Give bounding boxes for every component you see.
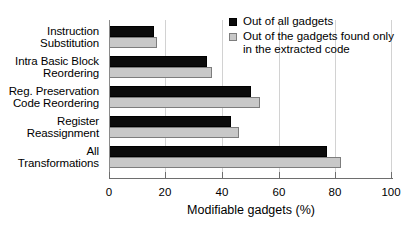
x-axis-title: Modifiable gadgets (%) bbox=[109, 203, 393, 218]
y-axis-label-1-line-0: Intra Basic Block bbox=[0, 55, 99, 68]
y-axis-label-2-line-0: Reg. Preservation bbox=[0, 85, 99, 98]
y-axis-label-2-line-1: Code Reordering bbox=[0, 97, 99, 110]
bar-extracted-code bbox=[109, 97, 260, 108]
legend-label-black-line1: Out of all gadgets bbox=[243, 15, 333, 29]
bar-all-gadgets bbox=[109, 86, 251, 97]
x-tick-100 bbox=[391, 172, 392, 179]
legend-label-gray: Out of the gadgets found only in the ext… bbox=[243, 30, 394, 57]
chart-legend: Out of all gadgets Out of the gadgets fo… bbox=[229, 15, 394, 58]
bar-extracted-code bbox=[109, 67, 212, 78]
y-axis-label-4-line-0: All bbox=[0, 145, 99, 158]
x-tick-label-0: 0 bbox=[89, 186, 129, 199]
y-axis-label-4-line-1: Transformations bbox=[0, 157, 99, 170]
x-tick-80 bbox=[335, 172, 336, 179]
y-axis-label-1: Intra Basic BlockReordering bbox=[0, 55, 104, 80]
legend-label-gray-line1: Out of the gadgets found only bbox=[243, 30, 394, 44]
bar-all-gadgets bbox=[109, 56, 207, 67]
legend-item-all-gadgets: Out of all gadgets bbox=[229, 15, 394, 29]
legend-item-extracted-code: Out of the gadgets found only in the ext… bbox=[229, 30, 394, 57]
x-tick-label-60: 60 bbox=[259, 186, 299, 199]
x-tick-label-20: 20 bbox=[145, 186, 185, 199]
bar-extracted-code bbox=[109, 157, 341, 168]
y-axis-label-3: RegisterReassignment bbox=[0, 115, 104, 140]
y-axis-label-1-line-1: Reordering bbox=[0, 67, 99, 80]
x-tick-label-80: 80 bbox=[315, 186, 355, 199]
bar-extracted-code bbox=[109, 127, 239, 138]
bar-all-gadgets bbox=[109, 146, 327, 157]
y-axis-label-0-line-1: Substitution bbox=[0, 37, 99, 50]
legend-swatch-black bbox=[229, 18, 237, 26]
bar-chart: InstructionSubstitutionIntra Basic Block… bbox=[0, 0, 410, 233]
y-axis-label-0-line-0: Instruction bbox=[0, 25, 99, 38]
bar-all-gadgets bbox=[109, 116, 231, 127]
legend-swatch-gray bbox=[229, 33, 237, 41]
legend-label-black: Out of all gadgets bbox=[243, 15, 333, 29]
x-tick-40 bbox=[222, 172, 223, 179]
y-axis-category-labels: InstructionSubstitutionIntra Basic Block… bbox=[0, 20, 104, 172]
x-tick-60 bbox=[279, 172, 280, 179]
x-axis-line bbox=[109, 178, 393, 179]
bar-extracted-code bbox=[109, 37, 157, 48]
y-axis-label-2: Reg. PreservationCode Reordering bbox=[0, 85, 104, 110]
x-tick-0 bbox=[109, 172, 110, 179]
x-tick-label-40: 40 bbox=[202, 186, 242, 199]
y-axis-line bbox=[109, 20, 110, 172]
legend-label-gray-line2: in the extracted code bbox=[243, 43, 394, 57]
y-axis-label-3-line-0: Register bbox=[0, 115, 99, 128]
x-tick-20 bbox=[165, 172, 166, 179]
bar-all-gadgets bbox=[109, 26, 154, 37]
x-tick-label-100: 100 bbox=[371, 186, 410, 199]
y-axis-label-4: AllTransformations bbox=[0, 145, 104, 170]
y-axis-label-0: InstructionSubstitution bbox=[0, 25, 104, 50]
y-axis-label-3-line-1: Reassignment bbox=[0, 127, 99, 140]
